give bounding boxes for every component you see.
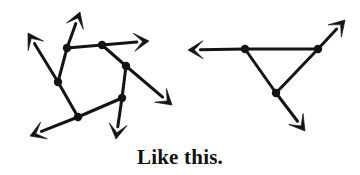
right-graph-vertex-R2 (314, 45, 322, 53)
left-graph-vertex-L2 (98, 41, 106, 49)
left-graph-vertex-L5 (74, 113, 82, 121)
left-graph-vertex-L3 (122, 62, 130, 70)
right-graph-vertex-R3 (272, 89, 280, 97)
figure-caption: Like this. (0, 144, 360, 170)
left-graph-vertex-L6 (54, 78, 62, 86)
right-graph-vertex-R1 (241, 45, 249, 53)
left-graph-vertex-L1 (63, 44, 71, 52)
right-graph-left-arrow-shaft (200, 49, 245, 50)
left-graph-vertex-L4 (118, 94, 126, 102)
